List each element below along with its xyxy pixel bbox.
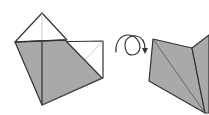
folded-model-before <box>15 13 103 105</box>
origami-diagram <box>0 0 209 115</box>
folded-model-after <box>149 35 209 113</box>
flip-over-arrow-icon <box>116 35 148 55</box>
